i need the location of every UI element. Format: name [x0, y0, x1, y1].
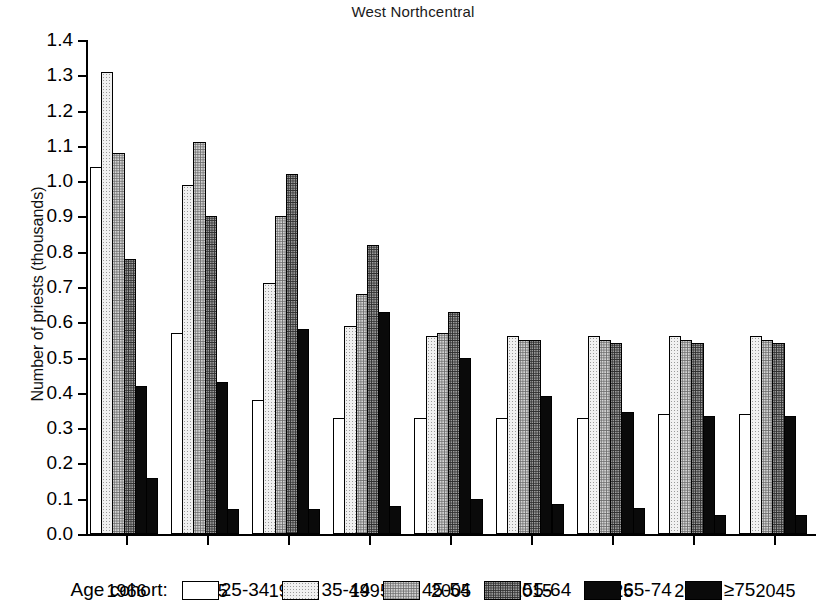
- legend-label: 65-74: [623, 579, 672, 601]
- x-axis-tick: [612, 536, 614, 545]
- legend-swatch-icon: [182, 581, 219, 600]
- bar-group: [739, 40, 806, 534]
- y-axis-tick: 0.3: [78, 428, 86, 430]
- y-axis-tick: 0.4: [78, 393, 86, 395]
- y-axis-tick-label: 0.2: [47, 453, 73, 472]
- bar[interactable]: [470, 499, 482, 534]
- bar[interactable]: [297, 329, 309, 534]
- y-axis-tick-label: 1.2: [47, 101, 73, 120]
- y-axis-tick: 1.3: [78, 75, 86, 77]
- bar-group: [496, 40, 563, 534]
- y-axis-tick-label: 0.7: [47, 277, 73, 296]
- y-axis-tick: 0.0: [78, 534, 86, 536]
- y-axis-tick: 1.0: [78, 181, 86, 183]
- y-axis-tick-label: 0.9: [47, 206, 73, 225]
- y-axis-tick-label: 1.3: [47, 65, 73, 84]
- y-axis-tick-label: 1.4: [47, 30, 73, 49]
- legend-item[interactable]: 45-54: [383, 579, 471, 601]
- y-axis-label: Number of priests (thousands): [29, 84, 47, 504]
- y-axis-tick-label: 0.4: [47, 383, 73, 402]
- y-axis-tick-label: 1.1: [47, 136, 73, 155]
- x-axis-tick: [450, 536, 452, 545]
- y-axis-tick: 0.9: [78, 216, 86, 218]
- legend: Age cohort: 25-3435-4445-5455-6465-74≥75: [0, 576, 826, 604]
- y-axis-tick: 0.6: [78, 322, 86, 324]
- bar-group: [333, 40, 400, 534]
- legend-item[interactable]: 25-34: [182, 579, 270, 601]
- legend-label: ≥75: [724, 579, 756, 601]
- y-axis-tick: 0.1: [78, 499, 86, 501]
- y-axis-tick-label: 0.5: [47, 348, 73, 367]
- bar[interactable]: [633, 508, 645, 534]
- y-axis-tick: 0.7: [78, 287, 86, 289]
- legend-items: 25-3435-4445-5455-6465-74≥75: [182, 579, 756, 601]
- legend-label: 55-64: [523, 579, 572, 601]
- y-axis-tick: 0.2: [78, 463, 86, 465]
- bar-group: [90, 40, 157, 534]
- legend-label: 35-44: [321, 579, 370, 601]
- bar[interactable]: [552, 504, 564, 534]
- legend-label: 45-54: [422, 579, 471, 601]
- y-axis-line: [86, 40, 88, 536]
- legend-label: 25-34: [221, 579, 270, 601]
- bar-group: [414, 40, 481, 534]
- bar[interactable]: [714, 515, 726, 534]
- legend-swatch-icon: [282, 581, 319, 600]
- y-axis-tick: 0.8: [78, 252, 86, 254]
- bar-group: [171, 40, 238, 534]
- y-axis-tick-label: 0.1: [47, 489, 73, 508]
- legend-item[interactable]: 65-74: [584, 579, 672, 601]
- plot-area: 0.00.10.20.30.40.50.60.70.80.91.01.11.21…: [86, 40, 816, 535]
- legend-title: Age cohort:: [71, 579, 168, 601]
- x-axis-tick: [288, 536, 290, 545]
- bar[interactable]: [378, 312, 390, 534]
- legend-item[interactable]: 55-64: [484, 579, 572, 601]
- y-axis-tick: 1.4: [78, 40, 86, 42]
- y-axis-tick-label: 0.0: [47, 524, 73, 543]
- legend-swatch-icon: [383, 581, 420, 600]
- y-axis-tick: 1.2: [78, 111, 86, 113]
- legend-swatch-icon: [685, 581, 722, 600]
- legend-item[interactable]: ≥75: [685, 579, 756, 601]
- x-axis-tick: [531, 536, 533, 545]
- bar[interactable]: [227, 509, 239, 534]
- x-axis-tick: [774, 536, 776, 545]
- bar[interactable]: [308, 509, 320, 534]
- y-axis-tick-label: 0.6: [47, 312, 73, 331]
- y-axis-tick-label: 1.0: [47, 171, 73, 190]
- chart-figure: West Northcentral Number of priests (tho…: [0, 0, 826, 609]
- legend-item[interactable]: 35-44: [282, 579, 370, 601]
- legend-swatch-icon: [484, 581, 521, 600]
- y-axis-tick: 0.5: [78, 358, 86, 360]
- chart-title: West Northcentral: [0, 3, 826, 20]
- legend-swatch-icon: [584, 581, 621, 600]
- x-axis-tick: [693, 536, 695, 545]
- bar[interactable]: [389, 506, 401, 534]
- bar-group: [252, 40, 319, 534]
- y-axis-tick: 1.1: [78, 146, 86, 148]
- bar[interactable]: [795, 515, 807, 534]
- bar-group: [577, 40, 644, 534]
- x-axis-tick: [126, 536, 128, 545]
- y-axis-tick-label: 0.8: [47, 242, 73, 261]
- x-axis-tick: [369, 536, 371, 545]
- y-axis-tick-label: 0.3: [47, 418, 73, 437]
- x-axis-tick: [207, 536, 209, 545]
- bar-group: [658, 40, 725, 534]
- bar[interactable]: [146, 478, 158, 534]
